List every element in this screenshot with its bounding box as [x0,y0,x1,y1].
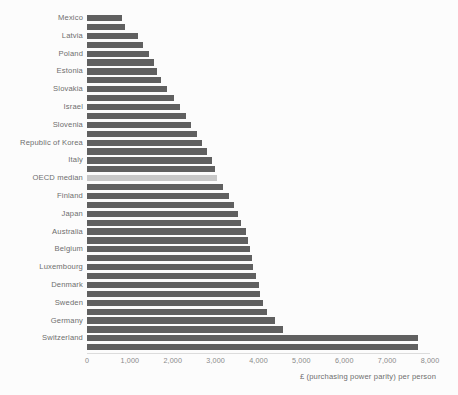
bar [87,291,260,297]
bar [87,95,174,101]
plot-area [87,15,430,353]
bar [87,51,149,57]
bar [87,211,238,217]
bar [87,175,217,181]
bar [87,68,157,74]
category-label: Australia [0,228,83,236]
category-label: Italy [0,156,83,164]
bar [87,86,167,92]
category-label: Republic of Korea [0,139,83,147]
bar-row [87,59,430,65]
category-label: Germany [0,317,83,325]
x-tick-label: 6,000 [335,357,354,364]
category-label: Estonia [0,67,83,75]
bar-row [87,335,430,341]
bar [87,33,138,39]
bar-row [87,77,430,83]
bar [87,246,250,252]
category-label: Slovenia [0,121,83,129]
bar [87,131,197,137]
bar-row [87,113,430,119]
bar-row [87,291,430,297]
category-label: Luxembourg [0,263,83,271]
bar-row [87,42,430,48]
bar [87,344,418,350]
category-axis: MexicoLatviaPolandEstoniaSlovakiaIsraelS… [0,15,83,353]
bar-row [87,166,430,172]
x-tick-label: 5,000 [292,357,311,364]
category-label: Poland [0,50,83,58]
bar-row [87,104,430,110]
bar [87,77,161,83]
category-label: Belgium [0,245,83,253]
bar-row [87,255,430,261]
bar [87,184,223,190]
bar [87,300,263,306]
x-tick-label: 0 [85,357,89,364]
category-label: Sweden [0,299,83,307]
bar [87,273,256,279]
bar [87,166,215,172]
category-label: Switzerland [0,334,83,342]
bar-row [87,33,430,39]
bar-chart: MexicoLatviaPolandEstoniaSlovakiaIsraelS… [0,0,458,395]
x-tick-label: 3,000 [206,357,225,364]
category-label: OECD median [0,174,83,182]
bar-row [87,86,430,92]
bar [87,193,229,199]
category-label: Finland [0,192,83,200]
x-tick-label: 4,000 [249,357,268,364]
bar [87,202,234,208]
bar-row [87,237,430,243]
bar [87,228,246,234]
bar [87,104,180,110]
bar-row [87,326,430,332]
bar-row [87,344,430,350]
bar [87,140,202,146]
category-label: Japan [0,210,83,218]
bar [87,335,418,341]
bar-row [87,122,430,128]
category-label: Denmark [0,281,83,289]
bar [87,157,212,163]
bar [87,15,122,21]
x-axis-title: £ (purchasing power parity) per person [300,373,436,381]
bar [87,59,154,65]
x-axis-line [87,353,430,354]
x-tick-label: 8,000 [421,357,440,364]
bar-row [87,211,430,217]
bar-row [87,228,430,234]
bar-row [87,246,430,252]
bar [87,326,283,332]
bar-row [87,51,430,57]
bar-row [87,95,430,101]
bar [87,282,259,288]
bar-row [87,264,430,270]
bar-row [87,220,430,226]
bar [87,317,275,323]
x-tick-label: 7,000 [378,357,397,364]
bar-row [87,140,430,146]
bar-row [87,273,430,279]
bar [87,255,252,261]
bar [87,113,186,119]
bar-row [87,24,430,30]
bar-row [87,300,430,306]
bar-row [87,68,430,74]
bar-row [87,184,430,190]
bar-row [87,15,430,21]
bar [87,309,267,315]
bar [87,220,241,226]
bar [87,264,253,270]
bar [87,237,248,243]
bar [87,148,207,154]
bar-row [87,157,430,163]
x-tick-label: 2,000 [163,357,182,364]
bar [87,42,143,48]
bar-row [87,309,430,315]
category-label: Israel [0,103,83,111]
category-label: Mexico [0,14,83,22]
bar-row [87,175,430,181]
bar-row [87,148,430,154]
category-label: Slovakia [0,85,83,93]
